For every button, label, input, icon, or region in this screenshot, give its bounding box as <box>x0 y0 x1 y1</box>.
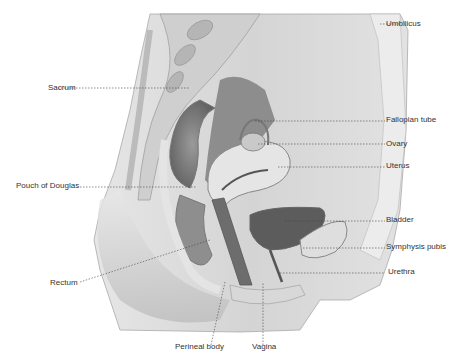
label-bladder: Bladder <box>386 215 414 225</box>
label-ovary: Ovary <box>386 139 407 149</box>
label-perineal-body: Perineal body <box>175 342 224 352</box>
label-vagina: Vagina <box>252 342 276 352</box>
label-umbilicus: Umbilicus <box>386 19 421 29</box>
label-urethra: Urethra <box>388 267 415 277</box>
label-rectum: Rectum <box>50 278 78 288</box>
label-fallopian-tube: Fallopian tube <box>386 115 436 125</box>
ovary-shape <box>241 133 265 151</box>
label-pouch-of-douglas: Pouch of Douglas <box>16 181 79 191</box>
label-symphysis-pubis: Symphysis pubis <box>386 242 446 252</box>
label-uterus: Uterus <box>386 161 410 171</box>
pelvis-illustration <box>0 0 464 360</box>
label-sacrum: Sacrum <box>48 83 76 93</box>
